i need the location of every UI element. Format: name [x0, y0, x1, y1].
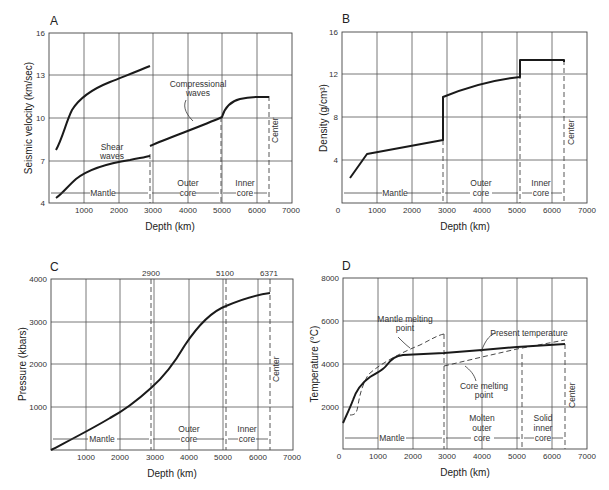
svg-text:Molten: Molten	[469, 413, 495, 423]
svg-text:0: 0	[336, 206, 341, 215]
panel-a-ylabel: Seismic velocity (km/sec)	[23, 62, 34, 174]
svg-text:6000: 6000	[321, 317, 339, 326]
panel-b-letter: B	[342, 12, 350, 26]
svg-text:waves: waves	[185, 88, 210, 98]
svg-text:6000: 6000	[543, 206, 561, 215]
panel-c-axes: 4000 3000 2000 1000 1000 2000 3000 4000 …	[17, 275, 301, 479]
svg-text:6000: 6000	[248, 206, 266, 215]
svg-text:6000: 6000	[543, 452, 561, 461]
svg-text:Center: Center	[566, 119, 576, 145]
panel-d-annotations: Mantle melting point Present temperature…	[377, 314, 568, 400]
svg-text:Outer: Outer	[177, 178, 198, 188]
svg-text:16: 16	[36, 29, 45, 38]
panel-b: B Mantle Outer core	[318, 12, 596, 232]
svg-text:Outer: Outer	[470, 178, 491, 188]
svg-text:4: 4	[334, 156, 339, 165]
svg-text:7000: 7000	[282, 206, 300, 215]
panel-d-regions: Mantle Molten outer core Solid inner cor…	[345, 382, 577, 443]
panel-c-top-ticks: 2900 5100 6371	[142, 269, 278, 278]
mantle-melting-curve	[350, 334, 444, 415]
panel-c-letter: C	[50, 260, 59, 274]
figure: A Shear waves Compressional w	[0, 0, 609, 490]
svg-text:point: point	[475, 390, 494, 400]
svg-text:2000: 2000	[110, 206, 128, 215]
svg-text:4: 4	[41, 199, 46, 208]
svg-text:10: 10	[36, 114, 45, 123]
svg-text:4000: 4000	[180, 453, 198, 462]
svg-text:core: core	[473, 188, 490, 198]
svg-text:Inner: Inner	[237, 424, 257, 434]
panel-d-curves	[343, 334, 565, 423]
panel-d-ylabel: Temperature (°C)	[309, 326, 320, 403]
svg-text:7000: 7000	[283, 453, 301, 462]
svg-text:4000: 4000	[473, 452, 491, 461]
svg-text:Inner: Inner	[531, 178, 551, 188]
svg-text:core: core	[535, 433, 552, 443]
panel-d-letter: D	[342, 259, 351, 273]
svg-text:Present temperature: Present temperature	[490, 328, 568, 338]
svg-text:Inner: Inner	[235, 178, 255, 188]
svg-text:1000: 1000	[75, 206, 93, 215]
panel-a-xlabel: Depth (km)	[145, 221, 194, 232]
svg-text:7: 7	[41, 157, 46, 166]
panel-a-regions: Mantle Outer core Inner core Center	[51, 117, 280, 198]
svg-text:1000: 1000	[369, 452, 387, 461]
svg-text:Center: Center	[567, 382, 577, 408]
panel-a: A Shear waves Compressional w	[23, 14, 300, 232]
svg-text:Mantle: Mantle	[382, 188, 408, 198]
panel-b-axes: 16 12 8 4 0 1000 2000 3000 4000 5000 600…	[318, 28, 596, 232]
svg-text:4000: 4000	[179, 206, 197, 215]
svg-text:core: core	[533, 188, 550, 198]
svg-text:waves: waves	[99, 151, 124, 161]
compressional-mantle-curve	[56, 66, 150, 150]
svg-text:3000: 3000	[146, 453, 164, 462]
svg-text:Mantle: Mantle	[90, 188, 116, 198]
panel-c-xlabel: Depth (km)	[147, 468, 196, 479]
panel-b-xlabel: Depth (km)	[440, 221, 489, 232]
svg-text:3000: 3000	[29, 318, 47, 327]
svg-text:point: point	[396, 323, 415, 333]
svg-text:Mantle: Mantle	[89, 434, 115, 444]
svg-text:7000: 7000	[578, 452, 596, 461]
svg-text:Solid: Solid	[534, 413, 553, 423]
svg-text:5100: 5100	[216, 269, 234, 278]
svg-text:2000: 2000	[29, 360, 47, 369]
svg-text:4000: 4000	[29, 275, 47, 284]
svg-text:7000: 7000	[578, 206, 596, 215]
svg-text:6000: 6000	[249, 453, 267, 462]
panel-a-annotations: Shear waves Compressional waves	[99, 79, 226, 161]
svg-text:core: core	[474, 433, 491, 443]
core-melting-curve	[444, 340, 565, 366]
svg-text:1000: 1000	[77, 453, 95, 462]
panel-c: C 2900 5100 6371 Ma	[17, 260, 301, 479]
svg-text:4000: 4000	[321, 360, 339, 369]
compressional-core-curve	[150, 97, 269, 146]
svg-text:5000: 5000	[508, 452, 526, 461]
svg-text:Mantle: Mantle	[379, 433, 405, 443]
svg-text:outer: outer	[472, 423, 492, 433]
svg-text:2000: 2000	[321, 403, 339, 412]
svg-text:1000: 1000	[368, 206, 386, 215]
panel-d-xlabel: Depth (km)	[440, 467, 489, 478]
svg-text:core: core	[180, 188, 197, 198]
panel-b-regions: Mantle Outer core Inner core Center	[344, 119, 576, 198]
svg-text:core: core	[181, 434, 198, 444]
panel-d: D Mantle melting point Prese	[309, 259, 596, 478]
svg-text:2000: 2000	[111, 453, 129, 462]
svg-text:1000: 1000	[29, 403, 47, 412]
svg-text:12: 12	[329, 70, 338, 79]
svg-text:core: core	[237, 188, 254, 198]
svg-text:Center: Center	[270, 117, 280, 143]
svg-text:core: core	[239, 434, 256, 444]
svg-text:2000: 2000	[403, 206, 421, 215]
panel-b-ylabel: Density (g/cm³)	[318, 84, 329, 152]
svg-text:2900: 2900	[142, 269, 160, 278]
svg-text:4000: 4000	[473, 206, 491, 215]
panel-d-axes: 8000 6000 4000 2000 0 1000 2000 3000 400…	[309, 274, 596, 478]
svg-text:2000: 2000	[404, 452, 422, 461]
svg-text:Outer: Outer	[178, 424, 199, 434]
svg-text:5000: 5000	[214, 453, 232, 462]
svg-text:8000: 8000	[321, 274, 339, 283]
svg-text:6371: 6371	[260, 269, 278, 278]
svg-text:3000: 3000	[438, 206, 456, 215]
